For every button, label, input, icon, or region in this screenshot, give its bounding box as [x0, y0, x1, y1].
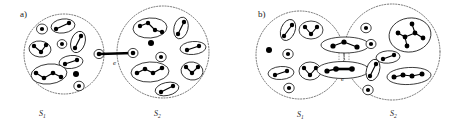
graph-node	[368, 74, 372, 78]
cluster-chain	[132, 17, 167, 39]
figure-canvas: a)	[0, 0, 456, 126]
graph-node	[159, 55, 163, 59]
graph-node	[79, 34, 83, 38]
graph-node	[184, 65, 188, 69]
graph-node	[51, 71, 56, 76]
graph-node	[60, 42, 64, 46]
panel-b-set-label-s2: S2	[390, 109, 397, 119]
graph-node	[410, 74, 415, 79]
graph-node	[171, 84, 175, 88]
graph-node	[303, 25, 307, 29]
graph-node	[54, 27, 58, 31]
graph-node	[196, 65, 200, 69]
graph-node	[324, 68, 329, 73]
graph-node	[354, 44, 359, 49]
graph-node	[67, 21, 71, 25]
graph-node	[160, 66, 165, 71]
graph-node	[369, 42, 373, 46]
graph-node	[381, 57, 385, 61]
graph-node	[159, 90, 163, 94]
graph-node	[374, 62, 378, 66]
graph-node	[302, 66, 306, 70]
graph-node	[34, 71, 39, 76]
edge-label-e-panel-b: e	[341, 75, 344, 83]
graph-node	[392, 75, 397, 80]
graph-node	[73, 46, 77, 50]
graph-node	[273, 73, 277, 77]
graph-node	[392, 53, 396, 57]
graph-node	[421, 36, 426, 41]
graph-node	[160, 30, 164, 34]
bridge-endpoint-node	[349, 66, 355, 72]
graph-node	[309, 32, 313, 36]
graph-node	[77, 84, 81, 88]
graph-node	[190, 71, 194, 75]
graph-node	[40, 27, 44, 31]
panel-b: b)	[256, 4, 440, 120]
graph-node	[308, 73, 312, 77]
cluster-triple	[299, 21, 323, 39]
graph-node	[413, 31, 418, 36]
graph-node	[44, 43, 48, 47]
graph-node	[39, 50, 43, 54]
bridge-endpoint-node	[131, 51, 136, 56]
graph-node	[148, 40, 154, 46]
graph-node	[135, 71, 140, 76]
cluster-triple	[28, 40, 52, 58]
graph-node	[143, 67, 148, 72]
panel-b-boundary-s1	[256, 11, 344, 99]
graph-node	[403, 35, 408, 40]
graph-node	[364, 26, 368, 30]
graph-node	[396, 31, 401, 36]
graph-node	[405, 44, 410, 49]
graph-node	[73, 71, 79, 77]
graph-node	[285, 69, 289, 73]
panel-b-label: b)	[258, 9, 266, 19]
panel-a-label: a)	[20, 9, 27, 19]
panel-a: a)	[20, 6, 209, 119]
graph-node	[151, 71, 156, 76]
edge-label-e-panel-a: e	[113, 59, 116, 67]
graph-node	[182, 20, 186, 24]
graph-node	[138, 24, 142, 28]
graph-node	[330, 43, 335, 48]
graph-node	[282, 34, 286, 38]
graph-node	[266, 47, 272, 53]
graph-node	[366, 88, 370, 92]
panel-a-set-label-s1: S1	[39, 109, 46, 119]
graph-node	[197, 44, 201, 48]
cluster-overlap-upper	[321, 37, 369, 53]
graph-node	[59, 75, 64, 80]
graph-node	[153, 28, 157, 32]
graph-node	[42, 76, 47, 81]
panel-b-set-label-s1: S1	[297, 110, 304, 120]
graph-node	[315, 25, 319, 29]
graph-node	[176, 32, 180, 36]
panel-a-set-label-s2: S2	[154, 109, 161, 119]
graph-node	[32, 44, 36, 48]
panel-b-s2-clusters	[361, 15, 433, 95]
graph-node	[410, 22, 415, 27]
graph-node	[63, 62, 67, 66]
graph-node	[341, 39, 346, 44]
graph-node	[185, 48, 189, 52]
panel-b-overlap-clusters: e	[317, 37, 369, 83]
panel-a-s1-clusters	[28, 17, 104, 90]
bridge-endpoint-node	[333, 66, 339, 72]
graph-node	[290, 23, 294, 27]
graph-node	[286, 52, 290, 56]
graph-node	[75, 58, 79, 62]
panel-b-s1-clusters	[266, 17, 323, 93]
graph-node	[146, 21, 150, 25]
graph-node	[401, 73, 406, 78]
graph-node	[420, 72, 425, 77]
graph-node	[287, 86, 291, 90]
